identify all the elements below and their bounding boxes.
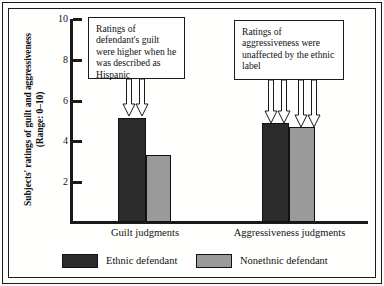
plot-area: 10 8 6 4 2 Guilt judgments Aggressivenes… bbox=[0, 0, 384, 286]
y-tick-label-2: 2 bbox=[44, 177, 68, 187]
y-tick-10 bbox=[73, 18, 82, 21]
y-axis-line bbox=[70, 19, 73, 224]
figure-container: Subjects' ratings of guilt and aggressiv… bbox=[0, 0, 384, 286]
group-label-aggressiveness: Aggressiveness judgments bbox=[222, 227, 357, 239]
callout-aggressiveness: Ratings of aggressiveness were unaffecte… bbox=[234, 20, 344, 80]
bar-aggressiveness-nonethnic bbox=[289, 127, 315, 222]
callout-aggressiveness-arrow-1 bbox=[264, 80, 278, 124]
y-tick-6 bbox=[73, 100, 82, 103]
callout-aggressiveness-arrow-3 bbox=[294, 80, 308, 128]
callout-aggressiveness-arrow-4 bbox=[307, 80, 321, 128]
y-tick-8 bbox=[73, 59, 82, 62]
legend-label-ethnic: Ethnic defendant bbox=[106, 255, 177, 267]
legend: Ethnic defendant Nonethnic defendant bbox=[0, 252, 384, 274]
legend-item-ethnic: Ethnic defendant bbox=[62, 254, 177, 268]
y-tick-label-10: 10 bbox=[44, 14, 68, 24]
legend-swatch-nonethnic bbox=[196, 254, 232, 268]
legend-swatch-ethnic bbox=[62, 254, 98, 268]
callout-guilt-arrow-right bbox=[135, 79, 149, 117]
bar-aggressiveness-ethnic bbox=[262, 123, 289, 222]
group-label-guilt: Guilt judgments bbox=[90, 227, 200, 239]
bar-guilt-nonethnic bbox=[146, 155, 171, 222]
callout-guilt-arrow-left bbox=[122, 79, 136, 117]
bar-guilt-ethnic bbox=[118, 118, 146, 222]
y-tick-label-6: 6 bbox=[44, 96, 68, 106]
legend-item-nonethnic: Nonethnic defendant bbox=[196, 254, 328, 268]
y-tick-label-4: 4 bbox=[44, 136, 68, 146]
x-axis-line bbox=[70, 221, 368, 224]
y-tick-label-8: 8 bbox=[44, 55, 68, 65]
callout-aggressiveness-arrow-2 bbox=[277, 80, 291, 124]
y-tick-4 bbox=[73, 140, 82, 143]
y-tick-2 bbox=[73, 181, 82, 184]
callout-guilt: Ratings of defendant's guilt were higher… bbox=[88, 17, 185, 79]
legend-label-nonethnic: Nonethnic defendant bbox=[240, 255, 328, 267]
